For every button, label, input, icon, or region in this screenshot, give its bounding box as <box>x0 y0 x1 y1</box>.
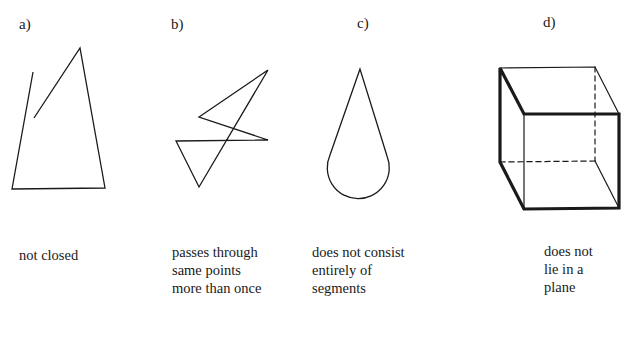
figure-b-caption: passes through same points more than onc… <box>172 243 261 297</box>
caption-line: not closed <box>19 246 78 264</box>
figure-c-caption: does not consist entirely of segments <box>312 243 405 297</box>
caption-line: more than once <box>172 279 261 297</box>
figure-a-open-polygon <box>12 48 105 189</box>
caption-line: segments <box>312 279 405 297</box>
figure-d-cube-bottom-right-edge <box>595 161 619 208</box>
figure-d-cube-bold-outline <box>500 68 619 209</box>
caption-line: does not consist <box>312 243 405 261</box>
figure-d-cube-top-back-edges <box>500 67 619 114</box>
figure-a-caption: not closed <box>19 246 78 264</box>
caption-line: lie in a <box>544 260 593 278</box>
caption-line: passes through <box>172 243 261 261</box>
figure-c-teardrop <box>327 69 389 199</box>
figure-d-caption: does not lie in a plane <box>544 242 593 296</box>
figure-b-self-intersecting-polygon <box>176 70 268 187</box>
caption-line: plane <box>544 278 593 296</box>
figure-d-cube-hidden-horizontal-edge <box>500 161 595 162</box>
caption-line: entirely of <box>312 261 405 279</box>
caption-line: same points <box>172 261 261 279</box>
caption-line: does not <box>544 242 593 260</box>
